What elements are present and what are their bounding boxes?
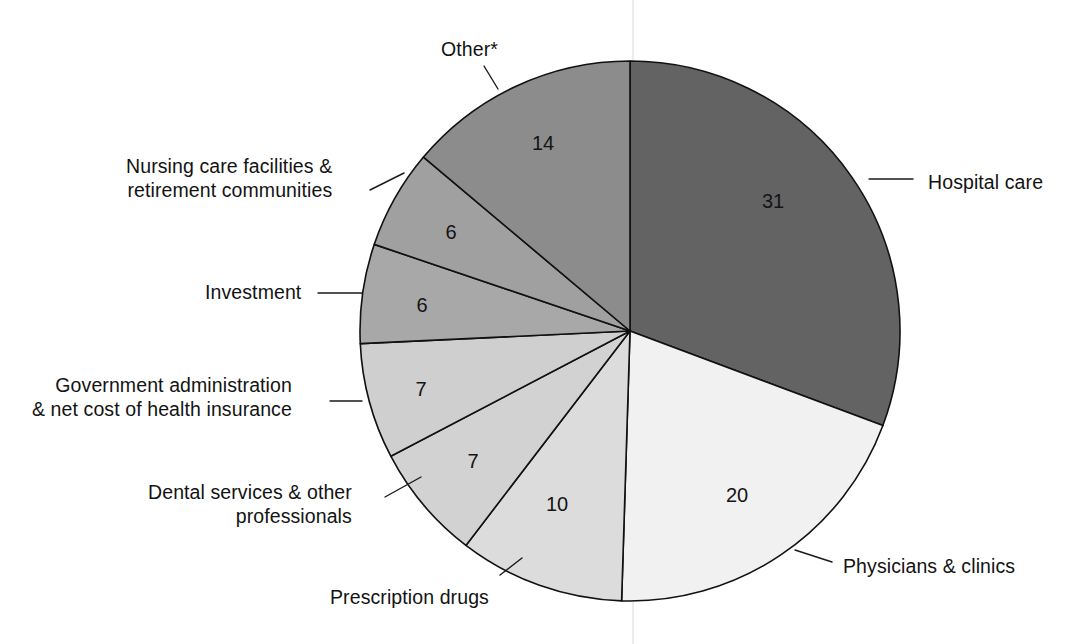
slice-value-label: 6: [445, 221, 456, 243]
slice-value-label: 10: [546, 493, 568, 515]
leader-line: [370, 173, 404, 190]
leader-line: [795, 550, 832, 562]
slice-callout-label: Dental services & other professionals: [148, 481, 352, 529]
slice-callout-label: Government administration & net cost of …: [32, 374, 292, 422]
slice-callout-label: Physicians & clinics: [843, 555, 1015, 579]
slice-value-label: 31: [762, 190, 784, 212]
pie-slices: [360, 61, 900, 601]
slice-value-label: 14: [532, 132, 554, 154]
pie-chart-figure: 312010776614 Hospital carePhysicians & c…: [0, 0, 1066, 644]
slice-value-label: 7: [467, 450, 478, 472]
slice-value-label: 20: [726, 484, 748, 506]
slice-callout-label: Prescription drugs: [330, 586, 489, 610]
pie-chart-canvas: 312010776614: [0, 0, 1066, 644]
slice-value-label: 6: [416, 294, 427, 316]
slice-value-label: 7: [415, 378, 426, 400]
slice-callout-label: Nursing care facilities & retirement com…: [126, 155, 332, 203]
leader-line: [484, 66, 498, 89]
slice-callout-label: Other*: [441, 38, 498, 62]
slice-callout-label: Investment: [205, 281, 301, 305]
slice-callout-label: Hospital care: [928, 171, 1043, 195]
